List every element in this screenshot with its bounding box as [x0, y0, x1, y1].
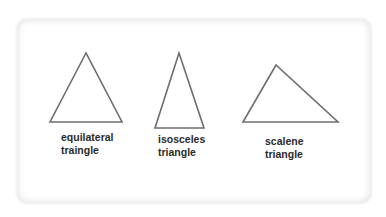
equilateral-label-line2: traingle: [61, 144, 114, 157]
isosceles-label-line1: isosceles: [158, 133, 205, 146]
equilateral-label-line1: equilateral: [61, 131, 114, 144]
equilateral-label: equilateral traingle: [61, 131, 114, 157]
equilateral-triangle-shape: [50, 53, 122, 122]
scalene-label: scalene triangle: [265, 135, 304, 161]
scalene-triangle-shape: [243, 65, 338, 122]
isosceles-label: isosceles triangle: [158, 133, 205, 159]
triangles-canvas: [0, 0, 386, 217]
isosceles-triangle-shape: [155, 53, 204, 128]
scalene-label-line2: triangle: [265, 148, 304, 161]
scalene-label-line1: scalene: [265, 135, 304, 148]
isosceles-label-line2: triangle: [158, 146, 205, 159]
